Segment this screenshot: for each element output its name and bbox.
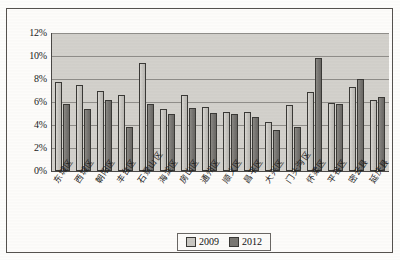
legend-item-2009: 2009 [186, 236, 219, 247]
x-axis-tick-label: 密云县 [347, 173, 365, 191]
bar-2009 [328, 103, 335, 171]
y-axis-tick-label: 10% [11, 51, 47, 61]
legend-swatch-icon [229, 237, 239, 247]
x-axis-tick-label: 怀柔区 [305, 173, 323, 191]
legend-label: 2009 [199, 236, 219, 247]
y-axis-tick-label: 4% [11, 120, 47, 130]
bar-group [159, 33, 180, 171]
bar-group [96, 33, 117, 171]
x-axis-tick-label: 门头沟区 [284, 173, 302, 191]
bar-2009 [265, 122, 272, 171]
chart-frame: 0%2%4%6%8%10%12% 东城区西城区朝阳区丰台区石景山区海淀区房山区通… [6, 8, 393, 253]
x-axis-tick-label: 通州区 [199, 173, 217, 191]
bar-group [306, 33, 327, 171]
bar-group [243, 33, 264, 171]
x-axis-tick-label: 丰台区 [115, 173, 133, 191]
bar-2009 [286, 105, 293, 171]
bar-2009 [370, 100, 377, 171]
bar-2009 [244, 112, 251, 171]
bar-group [369, 33, 390, 171]
bar-group [54, 33, 75, 171]
bar-group [201, 33, 222, 171]
bar-2009 [349, 87, 356, 171]
x-axis-tick-label: 房山区 [178, 173, 196, 191]
bar-group [222, 33, 243, 171]
x-axis-tick-label: 朝阳区 [94, 173, 112, 191]
legend-item-2012: 2012 [229, 236, 262, 247]
x-axis-tick-label: 大兴区 [263, 173, 281, 191]
y-axis: 0%2%4%6%8%10%12% [7, 33, 47, 171]
legend-swatch-icon [186, 237, 196, 247]
x-axis-tick-label: 西城区 [73, 173, 91, 191]
bar-group [327, 33, 348, 171]
chart-legend: 20092012 [177, 233, 271, 251]
chart-screenshot: 0%2%4%6%8%10%12% 东城区西城区朝阳区丰台区石景山区海淀区房山区通… [0, 0, 400, 260]
x-axis-tick-label: 延庆县 [368, 173, 386, 191]
bar-2009 [181, 95, 188, 171]
bar-2009 [55, 82, 62, 171]
bar-2009 [223, 112, 230, 171]
x-axis-tick-label: 顺义区 [221, 173, 239, 191]
bar-2009 [97, 91, 104, 172]
y-axis-tick-label: 8% [11, 74, 47, 84]
bar-2012 [315, 58, 322, 171]
x-axis-tick-label: 东城区 [52, 173, 70, 191]
y-axis-tick-label: 12% [11, 28, 47, 38]
bar-group [180, 33, 201, 171]
bar-2009 [118, 95, 125, 171]
y-axis-tick-label: 0% [11, 166, 47, 176]
y-axis-tick-label: 2% [11, 143, 47, 153]
bar-group [348, 33, 369, 171]
plot-area [51, 33, 389, 172]
x-axis-labels: 东城区西城区朝阳区丰台区石景山区海淀区房山区通州区顺义区昌平区大兴区门头沟区怀柔… [51, 173, 388, 233]
y-axis-tick-label: 6% [11, 97, 47, 107]
legend-label: 2012 [242, 236, 262, 247]
bar-group [264, 33, 285, 171]
x-axis-tick-label: 石景山区 [136, 173, 154, 191]
bar-group [75, 33, 96, 171]
bar-2009 [76, 85, 83, 171]
bar-2009 [202, 107, 209, 171]
bar-2009 [139, 63, 146, 171]
x-axis-tick-label: 海淀区 [157, 173, 175, 191]
x-axis-tick-label: 昌平区 [242, 173, 260, 191]
x-axis-tick-label: 平谷区 [326, 173, 344, 191]
bar-group [117, 33, 138, 171]
bar-2009 [160, 109, 167, 171]
